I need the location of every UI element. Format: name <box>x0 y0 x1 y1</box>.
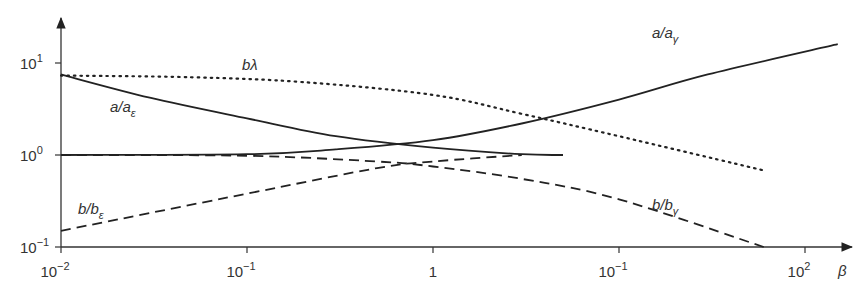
x-tick-label: 102 <box>788 260 811 280</box>
x-tick-label: 10−1 <box>226 260 255 280</box>
curve-label: bλ <box>242 56 258 73</box>
chart: 10110010−1 10−210−1110−1102 a/aεa/aγbλb/… <box>0 0 861 299</box>
curve-label: a/aε <box>110 98 136 119</box>
curve-a/aγ <box>61 44 838 155</box>
x-tick-label: 1 <box>429 263 437 280</box>
curve-label: a/aγ <box>652 24 680 45</box>
x-tick-label: 10−2 <box>40 260 69 280</box>
x-ticks: 10−210−1110−1102 <box>40 247 810 280</box>
curve-label: b/bε <box>78 200 104 221</box>
curve-b/bε <box>61 155 522 231</box>
x-tick-label: 10−1 <box>598 260 627 280</box>
y-tick-label: 10−1 <box>20 236 49 256</box>
curve-bλ <box>61 76 764 171</box>
y-tick-label: 101 <box>20 52 43 72</box>
y-tick-label: 100 <box>20 144 43 164</box>
curves <box>61 44 838 247</box>
y-ticks: 10110010−1 <box>20 52 61 256</box>
curve-a/aε <box>61 74 563 155</box>
x-axis-label: β <box>837 262 847 279</box>
